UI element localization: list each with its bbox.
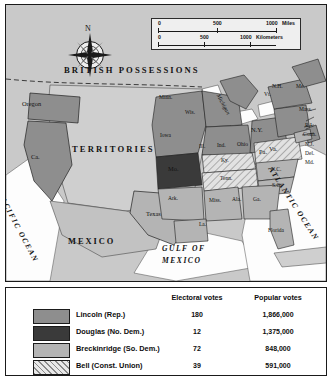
label-state-minn: Minn. — [159, 94, 172, 100]
legend-swatch-lincoln — [33, 309, 70, 324]
label-state-ohio: Ohio — [237, 141, 248, 147]
label-state-nh: N.H. — [272, 83, 283, 89]
label-british-possessions: BRITISH POSSESSIONS — [64, 65, 200, 75]
label-state-tenn: Tenn. — [220, 175, 232, 181]
label-mexico: MEXICO — [68, 237, 115, 246]
scale-miles-unit: Miles — [282, 20, 295, 27]
label-state-oregon: Oregon — [22, 100, 41, 107]
label-state-miss: Miss. — [209, 197, 221, 203]
scale-km-tick-0: 0 — [158, 34, 161, 41]
label-state-ky: Ky. — [221, 157, 229, 163]
legend-swatch-breckinridge — [33, 343, 70, 358]
legend-electoral-douglas: 12 — [166, 328, 228, 335]
legend-row-breckinridge: Breckinridge (So. Dem.) 72 848,000 — [6, 341, 326, 358]
label-state-del: Del. — [305, 150, 314, 156]
label-state-mass: Mass. — [299, 106, 312, 112]
legend-popular-bell: 591,000 — [242, 362, 314, 369]
scale-km-unit: Kilometers — [256, 34, 283, 41]
scale-km-tick-500: 500 — [200, 34, 209, 41]
label-state-ri: R.I. — [305, 122, 313, 128]
label-territories: TERRITORIES — [72, 144, 155, 154]
label-state-ark: Ark. — [168, 195, 178, 201]
label-state-me: Me. — [296, 83, 305, 89]
label-state-vt: Vt. — [264, 91, 271, 97]
compass-north-label: N — [85, 24, 91, 33]
label-state-ill: Ill. — [199, 143, 205, 149]
election-map-figure: N — [0, 0, 330, 379]
legend-popular-breckinridge: 848,000 — [242, 345, 314, 352]
legend-panel: Electoral votes Popular votes Lincoln (R… — [5, 287, 327, 376]
legend-row-douglas: Douglas (No. Dem.) 12 1,375,000 — [6, 324, 326, 341]
legend-row-bell: Bell (Const. Union) 39 591,000 — [6, 358, 326, 375]
scale-miles-tick-500: 500 — [213, 20, 222, 27]
scale-miles-tick-0: 0 — [158, 20, 161, 27]
label-state-ala: Ala. — [232, 196, 241, 202]
scale-miles: 0 500 1000 Miles — [158, 20, 294, 32]
legend-candidate-breckinridge: Breckinridge (So. Dem.) — [76, 344, 160, 353]
label-state-iowa: Iowa — [160, 132, 171, 138]
legend-swatch-douglas — [33, 326, 70, 341]
label-state-pa: Pa. — [259, 148, 267, 155]
legend-popular-lincoln: 1,866,000 — [242, 311, 314, 318]
label-state-conn: Conn. — [303, 131, 316, 137]
legend-electoral-bell: 39 — [166, 362, 228, 369]
label-state-va: Va. — [269, 145, 277, 152]
label-state-mo: Mo. — [168, 165, 178, 172]
label-state-ny: N.Y. — [251, 126, 263, 133]
label-state-wis: Wis. — [185, 109, 195, 115]
legend-electoral-breckinridge: 72 — [166, 345, 228, 352]
legend-electoral-lincoln: 180 — [166, 311, 228, 318]
legend-header-electoral: Electoral votes — [166, 293, 228, 302]
scale-kilometers: 0 500 1000 Kilometers — [158, 34, 294, 46]
legend-row-lincoln: Lincoln (Rep.) 180 1,866,000 — [6, 307, 326, 324]
legend-candidate-lincoln: Lincoln (Rep.) — [76, 310, 125, 319]
legend-candidate-douglas: Douglas (No. Dem.) — [76, 327, 144, 336]
label-state-la: La. — [199, 221, 206, 227]
scale-miles-tick-1000: 1000 — [266, 20, 278, 27]
legend-popular-douglas: 1,375,000 — [242, 328, 314, 335]
legend-header-popular: Popular votes — [242, 293, 314, 302]
label-state-florida: Florida — [268, 227, 284, 233]
label-state-sc: S.C. — [272, 182, 281, 188]
label-state-ga: Ga. — [253, 196, 261, 202]
legend-swatch-bell — [33, 360, 70, 375]
label-state-md: Md. — [305, 159, 314, 165]
label-state-nj: N.J. — [305, 141, 314, 147]
legend-candidate-bell: Bell (Const. Union) — [76, 361, 143, 370]
map-area: N — [5, 4, 327, 282]
label-gulf-of-mexico: GULF OF MEXICO — [162, 243, 236, 267]
label-state-ind: Ind. — [217, 142, 226, 148]
label-state-ca: Ca. — [31, 153, 40, 160]
scale-bar: 0 500 1000 Miles 0 500 1000 Kilometers — [151, 18, 301, 50]
label-state-nc: N.C. — [271, 166, 281, 172]
scale-km-tick-1000: 1000 — [240, 34, 252, 41]
label-state-texas: Texas — [146, 210, 161, 217]
